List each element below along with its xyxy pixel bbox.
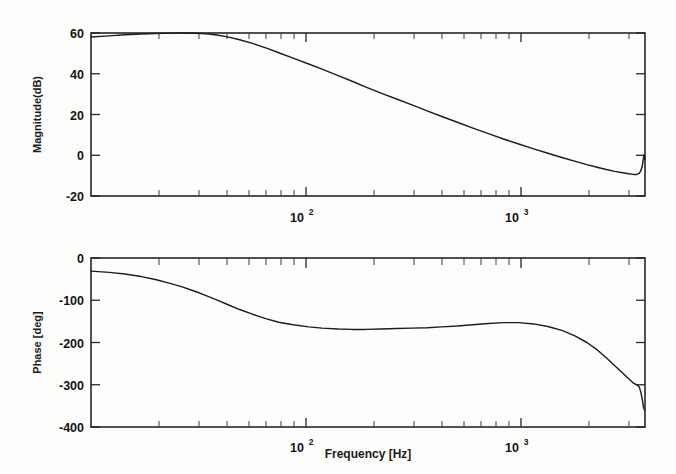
magnitude-ytick-60: 60 <box>70 27 84 41</box>
bode-plot-figure: 60 40 20 0 -20 Magnitude(dB) 10 2 10 3 <box>0 0 676 474</box>
phase-xtick-1e3: 10 3 <box>505 437 529 455</box>
magnitude-ytick-minus20: -20 <box>66 190 84 204</box>
phase-panel: 0 -100 -200 -300 -400 Phase [deg] 10 2 1… <box>31 252 645 455</box>
magnitude-ytick-40: 40 <box>70 68 84 82</box>
x-axis-label: Frequency [Hz] <box>325 447 412 461</box>
phase-y-ticks <box>91 258 645 427</box>
phase-ytick-minus100: -100 <box>59 294 84 308</box>
phase-ytick-minus200: -200 <box>59 337 84 351</box>
magnitude-panel: 60 40 20 0 -20 Magnitude(dB) 10 2 10 3 <box>31 27 645 225</box>
phase-xtick-1e3-mantissa: 10 <box>505 441 519 455</box>
magnitude-xtick-1e2-mantissa: 10 <box>290 211 304 225</box>
phase-xtick-1e2: 10 2 <box>290 437 314 455</box>
phase-xtick-1e2-exponent: 2 <box>309 437 314 447</box>
phase-ytick-minus300: -300 <box>59 379 84 393</box>
phase-curve <box>91 271 645 410</box>
magnitude-xtick-1e2-exponent: 2 <box>309 207 314 217</box>
magnitude-ytick-0: 0 <box>77 149 84 163</box>
phase-ytick-0: 0 <box>77 252 84 266</box>
phase-xtick-1e3-exponent: 3 <box>524 437 529 447</box>
magnitude-xtick-1e3: 10 3 <box>505 207 529 225</box>
phase-xtick-1e2-mantissa: 10 <box>290 441 304 455</box>
magnitude-plot-frame <box>91 33 645 196</box>
phase-y-axis-label: Phase [deg] <box>31 311 43 374</box>
magnitude-y-axis-label: Magnitude(dB) <box>31 76 43 153</box>
magnitude-xtick-1e3-mantissa: 10 <box>505 211 519 225</box>
magnitude-xtick-1e2: 10 2 <box>290 207 314 225</box>
magnitude-xtick-1e3-exponent: 3 <box>524 207 529 217</box>
phase-plot-frame <box>91 258 645 427</box>
phase-x-ticks <box>159 258 629 427</box>
magnitude-ytick-20: 20 <box>70 109 84 123</box>
magnitude-x-ticks <box>159 33 629 196</box>
phase-ytick-minus400: -400 <box>59 421 84 435</box>
magnitude-curve <box>91 33 645 174</box>
magnitude-y-ticks <box>91 33 645 196</box>
